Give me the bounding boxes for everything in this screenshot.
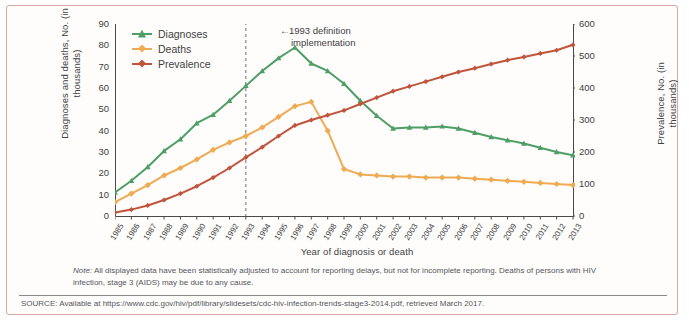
divider-rule [19,295,667,296]
y-axis-right-title: Prevalence, No. (in thousands) [655,39,678,169]
y-right-tick-300: 300 [579,114,609,125]
y-left-tick-50: 50 [83,103,109,114]
y-left-tick-60: 60 [83,82,109,93]
tick-marks [115,24,575,220]
plot-area [115,24,575,224]
data-series [115,42,575,215]
series-deaths [115,99,575,206]
series-diagnoses [115,44,575,194]
chart-canvas [115,24,575,224]
y-left-tick-90: 90 [83,18,109,29]
y-left-tick-0: 0 [83,210,109,221]
chart-note: Note: All displayed data have been stati… [73,265,618,288]
y-right-tick-0: 0 [579,210,609,221]
figure-frame: Diagnoses and deaths, No. (in thousands)… [6,5,678,315]
note-lead: Note: [73,266,92,275]
y-left-tick-80: 80 [83,39,109,50]
y-axis-left-title: Diagnoses and deaths, No. (in thousands) [59,4,82,144]
series-prevalence [115,42,575,215]
axis-lines [116,24,575,217]
note-text: All displayed data have been statistical… [73,266,596,287]
y-left-tick-30: 30 [83,146,109,157]
y-left-tick-10: 10 [83,189,109,200]
y-right-tick-400: 400 [579,82,609,93]
y-right-tick-200: 200 [579,146,609,157]
y-right-tick-500: 500 [579,50,609,61]
y-left-tick-40: 40 [83,125,109,136]
y-left-tick-70: 70 [83,61,109,72]
y-left-tick-20: 20 [83,167,109,178]
y-right-tick-100: 100 [579,178,609,189]
source-line: SOURCE: Available at https://www.cdc.gov… [21,299,671,308]
y-right-tick-600: 600 [579,18,609,29]
